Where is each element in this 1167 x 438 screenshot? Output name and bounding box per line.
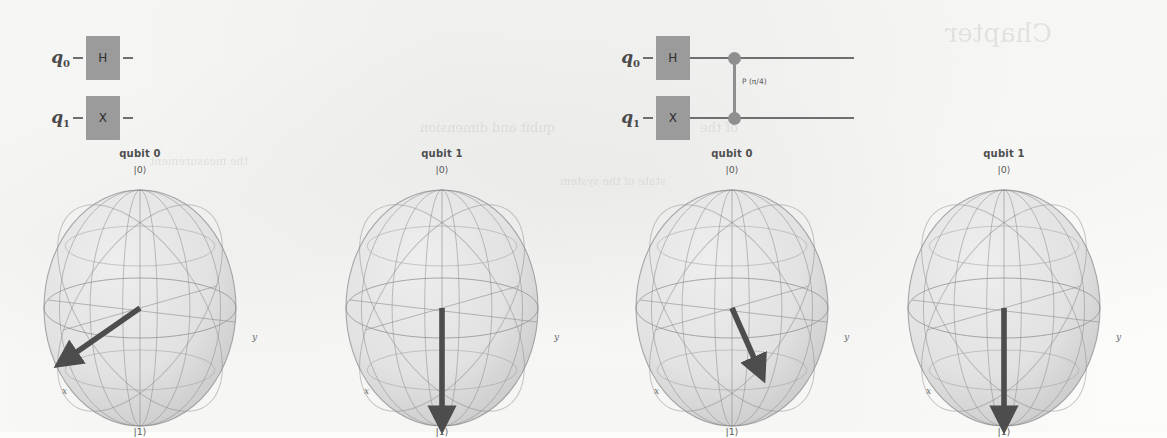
- gate-x-q1[interactable]: X: [86, 96, 120, 140]
- bloch-ket-zero: |0⟩: [312, 164, 572, 175]
- bleed-text: Chapter: [945, 18, 1052, 48]
- bleed-text: qubit and dimension: [420, 120, 555, 135]
- bloch-sphere-1: qubit 0|0⟩|1⟩xy: [10, 148, 270, 438]
- qubit-label-q0: q0: [614, 47, 640, 69]
- bloch-sphere-graphic: [602, 178, 862, 438]
- wire-stub-left: [73, 117, 83, 119]
- wire-stub-left: [73, 57, 83, 59]
- phase-gate-label: P (π/4): [742, 77, 767, 86]
- bloch-sphere-4: qubit 1|0⟩|1⟩xy: [874, 148, 1134, 438]
- wire-stub-right: [123, 57, 133, 59]
- wire-stub-left: [643, 57, 653, 59]
- gate-x-q1[interactable]: X: [656, 96, 690, 140]
- bloch-ket-zero: |0⟩: [874, 164, 1134, 175]
- bloch-sphere-graphic: [874, 178, 1134, 438]
- bloch-sphere-graphic: [312, 178, 572, 438]
- control-link-line: [733, 58, 736, 118]
- wire-stub-left: [643, 117, 653, 119]
- wire-q1: [690, 117, 854, 119]
- control-dot-q1[interactable]: [728, 112, 741, 125]
- bloch-sphere-3: qubit 0|0⟩|1⟩xy: [602, 148, 862, 438]
- wire-stub-right: [123, 117, 133, 119]
- gate-h-q0[interactable]: H: [86, 36, 120, 80]
- bloch-sphere-2: qubit 1|0⟩|1⟩xy: [312, 148, 572, 438]
- wire-q0: [690, 57, 854, 59]
- bloch-ket-zero: |0⟩: [602, 164, 862, 175]
- bloch-ket-zero: |0⟩: [10, 164, 270, 175]
- bloch-title: qubit 1: [312, 148, 572, 159]
- bloch-title: qubit 0: [602, 148, 862, 159]
- qubit-label-q1: q1: [44, 107, 70, 129]
- qubit-label-q1: q1: [614, 107, 640, 129]
- circuit-row-q0: q0 H: [44, 36, 136, 80]
- bloch-title: qubit 0: [10, 148, 270, 159]
- control-dot-q0[interactable]: [728, 52, 741, 65]
- bloch-sphere-graphic: [10, 178, 270, 438]
- gate-h-q0[interactable]: H: [656, 36, 690, 80]
- bloch-title: qubit 1: [874, 148, 1134, 159]
- circuit-row-q1: q1 X: [44, 96, 136, 140]
- qubit-label-q0: q0: [44, 47, 70, 69]
